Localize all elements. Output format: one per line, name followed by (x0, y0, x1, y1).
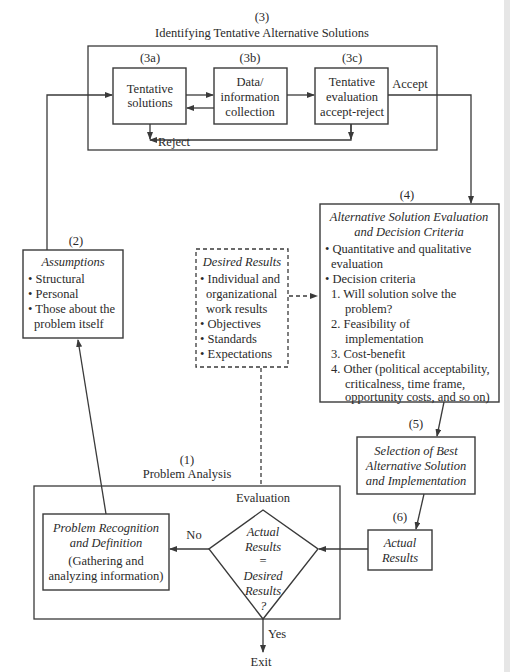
accept-label: Accept (392, 77, 428, 91)
section-3a-number: (3a) (140, 51, 160, 65)
svg-text:Results: Results (244, 584, 281, 598)
svg-text:• Quantitative and qualitative: • Quantitative and qualitative (325, 242, 472, 256)
section-1-title: Problem Analysis (143, 467, 232, 481)
section-4-number: (4) (400, 188, 415, 202)
section-5-number: (5) (409, 417, 424, 431)
svg-text:Alternative Solution: Alternative Solution (365, 459, 466, 473)
svg-text:problem?: problem? (345, 302, 393, 316)
svg-text:(Gathering and: (Gathering and (68, 554, 144, 568)
svg-text:opportunity costs, and so on): opportunity costs, and so on) (345, 390, 490, 404)
reject-label: Reject (158, 135, 190, 149)
svg-text:Results: Results (381, 551, 418, 565)
section-2-number: (2) (69, 234, 84, 248)
arrow-assumptions-to-section-3 (47, 95, 112, 250)
svg-text:2. Feasibility of: 2. Feasibility of (331, 317, 411, 331)
svg-text:• Expectations: • Expectations (200, 347, 272, 361)
svg-text:criticalness, time frame,: criticalness, time frame, (345, 377, 465, 391)
svg-text:• Standards: • Standards (200, 332, 257, 346)
section-3-identifying-solutions: (3) Identifying Tentative Alternative So… (88, 10, 471, 203)
svg-text:solutions: solutions (127, 96, 172, 110)
svg-text:and Definition: and Definition (70, 536, 143, 550)
problem-solving-diagram: (3) Identifying Tentative Alternative So… (0, 0, 510, 672)
svg-text:Selection of Best: Selection of Best (374, 444, 458, 458)
section-3c-number: (3c) (342, 51, 362, 65)
svg-text:Results: Results (244, 540, 281, 554)
arrow-section-4-to-5 (437, 402, 444, 436)
svg-text:organizational: organizational (206, 287, 278, 301)
svg-text:• Decision criteria: • Decision criteria (325, 272, 416, 286)
svg-text:and Implementation: and Implementation (366, 474, 466, 488)
section-5-selection: (5) Selection of Best Alternative Soluti… (357, 417, 475, 494)
svg-text:?: ? (260, 599, 267, 613)
tentative-evaluation-box: Tentative evaluation accept-reject (315, 68, 388, 124)
svg-text:Desired: Desired (242, 569, 283, 583)
svg-text:4. Other (political acceptabil: 4. Other (political acceptability, (331, 362, 490, 376)
svg-text:• Structural: • Structural (28, 272, 85, 286)
svg-text:1. Will solution solve the: 1. Will solution solve the (331, 287, 457, 301)
svg-text:Alternative Solution Evaluatio: Alternative Solution Evaluation (329, 210, 488, 224)
page-edge (504, 0, 510, 672)
svg-text:Actual: Actual (246, 525, 280, 539)
svg-text:Tentative: Tentative (127, 82, 174, 96)
svg-text:evaluation: evaluation (326, 90, 379, 104)
svg-text:Data/: Data/ (236, 75, 264, 89)
svg-text:• Individual and: • Individual and (200, 272, 281, 286)
svg-text:• Personal: • Personal (28, 287, 79, 301)
svg-text:and Decision Criteria: and Decision Criteria (354, 225, 464, 239)
svg-text:information: information (220, 90, 280, 104)
svg-text:Tentative: Tentative (329, 75, 376, 89)
svg-text:work results: work results (206, 302, 268, 316)
section-4-evaluation-criteria: (4) Alternative Solution Evaluation and … (320, 188, 499, 404)
svg-text:evaluation: evaluation (331, 257, 384, 271)
section-1-number: (1) (180, 453, 195, 467)
svg-text:3. Cost-benefit: 3. Cost-benefit (331, 347, 406, 361)
evaluation-decision-diamond: Actual Results = Desired Results ? (209, 510, 318, 619)
assumptions-title: Assumptions (40, 255, 104, 269)
no-label: No (186, 528, 201, 542)
section-3-title: Identifying Tentative Alternative Soluti… (155, 26, 369, 40)
desired-results-title: Desired Results (202, 255, 281, 269)
desired-results-box: Desired Results • Individual and organiz… (196, 249, 288, 367)
tentative-solutions-box: Tentative solutions (113, 68, 186, 124)
arrow-recognition-to-assumptions (78, 340, 106, 514)
exit-label: Exit (251, 655, 272, 669)
svg-text:Problem Recognition: Problem Recognition (52, 521, 159, 535)
problem-recognition-box: Problem Recognition and Definition (Gath… (43, 514, 169, 590)
svg-text:accept-reject: accept-reject (320, 105, 384, 119)
svg-text:implementation: implementation (345, 332, 424, 346)
svg-text:=: = (259, 554, 266, 568)
section-2-assumptions: (2) Assumptions • Structural • Personal … (23, 234, 123, 338)
section-6-actual-results: (6) Actual Results (368, 510, 432, 570)
section-3b-number: (3b) (240, 51, 261, 65)
arrow-section-5-to-6 (416, 494, 424, 529)
yes-label: Yes (268, 627, 286, 641)
accept-arrow-to-section-4 (388, 95, 471, 203)
svg-text:analyzing information): analyzing information) (49, 569, 164, 583)
data-collection-box: Data/ information collection (214, 68, 287, 124)
svg-text:• Those about the: • Those about the (28, 302, 116, 316)
svg-text:Actual: Actual (383, 536, 417, 550)
section-6-number: (6) (393, 510, 408, 524)
svg-text:problem itself: problem itself (34, 317, 105, 331)
svg-text:collection: collection (225, 105, 275, 119)
evaluation-label: Evaluation (236, 491, 291, 505)
svg-text:• Objectives: • Objectives (200, 317, 261, 331)
section-3-number: (3) (255, 10, 270, 24)
section-1-problem-analysis: (1) Problem Analysis Evaluation Problem … (34, 453, 340, 619)
